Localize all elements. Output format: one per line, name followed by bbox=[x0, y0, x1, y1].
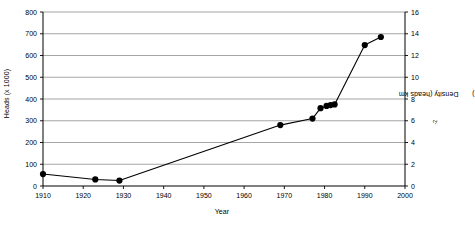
x-tick-label: 1920 bbox=[75, 192, 91, 199]
x-tick-label: 1980 bbox=[317, 192, 333, 199]
y2-tick-label: 0 bbox=[411, 183, 415, 190]
x-tick-label: 1910 bbox=[35, 192, 51, 199]
data-point bbox=[116, 177, 122, 183]
y-tick-label: 200 bbox=[25, 139, 37, 146]
x-axis-ticks: 1910192019301940195019601970198019902000 bbox=[35, 186, 413, 199]
x-tick-label: 1990 bbox=[357, 192, 373, 199]
x-tick-label: 1950 bbox=[196, 192, 212, 199]
data-line-heads bbox=[43, 37, 381, 181]
y2-tick-label: 12 bbox=[411, 52, 419, 59]
y-tick-label: 0 bbox=[33, 183, 37, 190]
y-axis-left-ticks: 0100200300400500600700800 bbox=[25, 9, 43, 190]
x-tick-label: 1930 bbox=[116, 192, 132, 199]
data-point bbox=[40, 171, 46, 177]
y2-tick-label: 16 bbox=[411, 9, 419, 16]
y-tick-label: 300 bbox=[25, 117, 37, 124]
data-point bbox=[378, 34, 384, 40]
data-point bbox=[309, 115, 315, 121]
data-point bbox=[92, 176, 98, 182]
y-tick-label: 400 bbox=[25, 96, 37, 103]
data-point bbox=[362, 42, 368, 48]
y2-tick-label: 10 bbox=[411, 74, 419, 81]
y-tick-label: 100 bbox=[25, 161, 37, 168]
y2-tick-label: 6 bbox=[411, 117, 415, 124]
y2-tick-label: 2 bbox=[411, 161, 415, 168]
gridlines bbox=[43, 12, 405, 164]
y-tick-label: 800 bbox=[25, 9, 37, 16]
x-tick-label: 2000 bbox=[397, 192, 413, 199]
data-point bbox=[317, 105, 323, 111]
y-tick-label: 500 bbox=[25, 74, 37, 81]
data-markers bbox=[40, 34, 384, 184]
x-tick-label: 1970 bbox=[277, 192, 293, 199]
data-point bbox=[277, 122, 283, 128]
x-tick-label: 1960 bbox=[236, 192, 252, 199]
x-tick-label: 1940 bbox=[156, 192, 172, 199]
y-axis-right-ticks: 0246810121416 bbox=[405, 9, 419, 190]
y2-tick-label: 4 bbox=[411, 139, 415, 146]
y-tick-label: 600 bbox=[25, 52, 37, 59]
y2-tick-label: 8 bbox=[411, 96, 415, 103]
y2-tick-label: 14 bbox=[411, 30, 419, 37]
y-tick-label: 700 bbox=[25, 30, 37, 37]
data-point bbox=[332, 101, 338, 107]
